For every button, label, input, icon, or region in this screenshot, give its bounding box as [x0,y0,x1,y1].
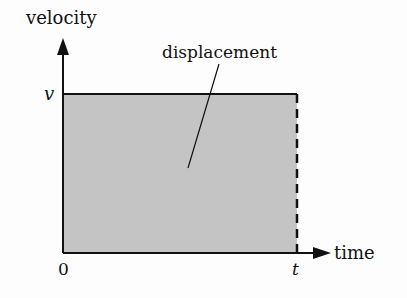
displacement-area [63,94,297,253]
x-axis-arrow-icon [313,247,331,259]
y-axis-label: velocity [25,7,97,28]
t-tick-label: t [292,259,299,279]
velocity-time-diagram: velocity time 0 t v displacement [0,0,407,298]
v-tick-label: v [44,83,54,104]
displacement-label: displacement [162,42,277,62]
y-axis-arrow-icon [57,38,69,55]
origin-label: 0 [58,259,69,279]
x-axis-label: time [334,242,375,263]
